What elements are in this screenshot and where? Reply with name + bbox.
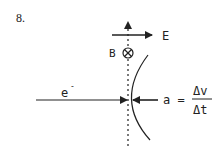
electron-trajectory-curve [131,55,150,140]
fraction-numerator: Δv [193,84,207,98]
fraction-denominator: Δt [193,103,207,117]
acceleration-lhs: a = [163,93,185,107]
magnetic-field-label: B [109,47,116,60]
electron-label: e [61,86,68,100]
problem-number: 8. [16,11,25,25]
diagram: 8. E B e - a = Δv Δt [0,0,222,149]
electron-charge-label: - [70,82,75,91]
electric-field-label: E [162,29,169,43]
into-page-icon [123,48,133,58]
